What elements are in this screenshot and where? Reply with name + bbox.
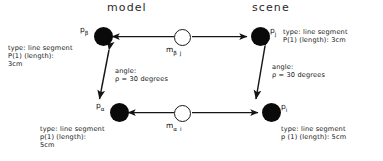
match-label-m-alpha-i: mα i <box>166 122 182 132</box>
angle-label-scene-line2: ρ = 30 degrees <box>272 72 325 80</box>
annotation-top-right-line2: P(1) (length): 3cm <box>283 37 348 45</box>
node-subscript-p-i: i <box>286 107 288 113</box>
match-subscript-m-beta-j: β j <box>173 50 182 56</box>
match-subscript-m-alpha-i: α i <box>173 126 182 132</box>
annotation-top-left: type: line segment P(1) (length): 3cm <box>8 45 73 68</box>
angle-label-scene: angle: ρ = 30 degrees <box>272 64 325 80</box>
annotation-bottom-left-line3: 5cm <box>40 142 105 150</box>
angle-label-model-line2: ρ = 30 degrees <box>115 76 168 84</box>
node-subscript-p-alpha: α <box>101 106 105 112</box>
node-subscript-p-beta: β <box>85 30 89 36</box>
match-label-m-beta-j: mβ j <box>166 46 182 56</box>
node-p-beta[interactable] <box>94 27 113 46</box>
node-label-p-alpha: pα <box>96 102 104 112</box>
node-label-p-j: pj <box>270 27 276 37</box>
annotation-bottom-right: type: line segment p (1) (length): 5cm <box>281 126 346 142</box>
annotation-bottom-left: type: line segment p(1) (length): 5cm <box>40 126 105 149</box>
annotation-bottom-right-line2: p (1) (length): 5cm <box>281 134 346 142</box>
header-model: model <box>107 2 147 15</box>
match-node-m-beta-j[interactable] <box>174 29 191 46</box>
annotation-top-right: type: line segment P(1) (length): 3cm <box>283 29 348 45</box>
annotation-top-left-line3: 3cm <box>8 61 73 69</box>
matching-diagram: model scene pβ pα pj pi mβ j mα i type: … <box>0 0 383 161</box>
edge-model-relation <box>100 50 110 99</box>
match-node-m-alpha-i[interactable] <box>174 105 191 122</box>
angle-label-model: angle: ρ = 30 degrees <box>115 68 168 84</box>
node-label-p-beta: pβ <box>80 26 88 36</box>
edge-scene-relation <box>256 46 265 99</box>
header-scene: scene <box>252 2 290 15</box>
node-subscript-p-j: j <box>275 31 277 37</box>
node-label-p-i: pi <box>281 103 287 113</box>
node-p-alpha[interactable] <box>110 103 129 122</box>
node-p-j[interactable] <box>251 27 270 46</box>
node-p-i[interactable] <box>262 103 281 122</box>
